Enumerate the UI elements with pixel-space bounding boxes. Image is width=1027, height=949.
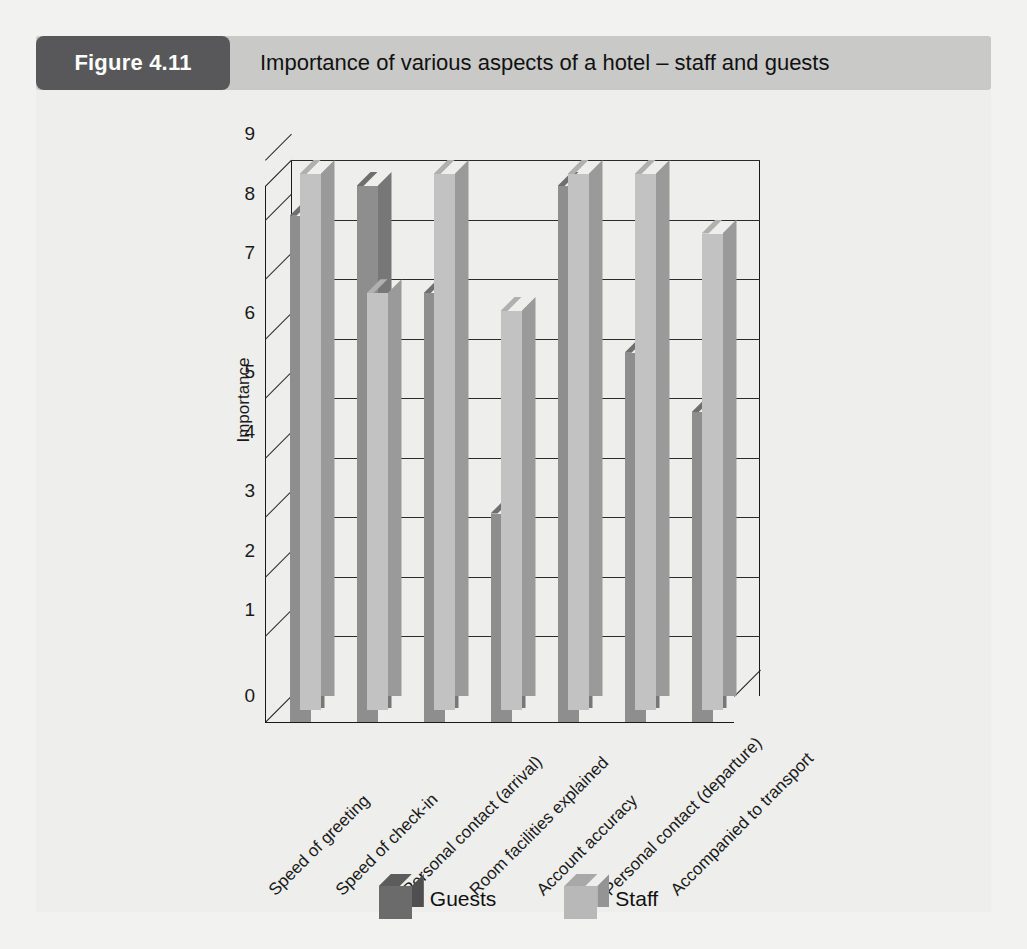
y-axis-title: Importance xyxy=(234,310,254,490)
y-tick-6 xyxy=(265,313,291,339)
plot-top-left-edge xyxy=(265,160,291,186)
x-axis-line xyxy=(265,722,734,723)
y-tick-1 xyxy=(265,610,291,636)
gridline-9 xyxy=(291,160,760,161)
bar-staff-0[interactable] xyxy=(300,174,321,710)
bar-staff-6[interactable] xyxy=(702,234,723,710)
y-tick-label-6: 6 xyxy=(221,302,265,324)
legend-item-staff[interactable]: Staff xyxy=(554,878,658,919)
bar-side-face xyxy=(656,160,670,696)
legend-swatch-guests-icon xyxy=(379,886,412,919)
bar-staff-4[interactable] xyxy=(568,174,589,710)
bar-side-face xyxy=(455,160,469,696)
legend-item-guests[interactable]: Guests xyxy=(369,878,497,919)
bar-front-face xyxy=(702,234,723,710)
bar-front-face xyxy=(434,174,455,710)
y-tick-label-1: 1 xyxy=(221,599,265,621)
y-tick-label-9: 9 xyxy=(221,123,265,145)
chart-legend: Guests Staff xyxy=(36,878,991,919)
bar-side-face xyxy=(522,297,536,696)
y-tick-label-7: 7 xyxy=(221,242,265,264)
legend-label-guests: Guests xyxy=(430,887,497,911)
bar-front-face xyxy=(300,174,321,710)
figure-number-badge: Figure 4.11 xyxy=(36,36,230,90)
figure-card: Figure 4.11 Importance of various aspect… xyxy=(36,36,991,912)
chart-region: Importance 0123456789 Speed of greetingS… xyxy=(36,90,991,912)
y-tick-label-2: 2 xyxy=(221,540,265,562)
plot-floor-right-edge xyxy=(734,696,760,722)
bar-side-face xyxy=(589,160,603,696)
bar-staff-5[interactable] xyxy=(635,174,656,710)
bar-side-face xyxy=(388,279,402,696)
y-tick-7 xyxy=(265,253,291,279)
bar-staff-2[interactable] xyxy=(434,174,455,710)
plot-floor-left-edge xyxy=(265,696,291,722)
bar-front-face xyxy=(367,293,388,710)
bar-front-face xyxy=(568,174,589,710)
y-tick-2 xyxy=(265,551,291,577)
y-tick-5 xyxy=(265,372,291,398)
legend-label-staff: Staff xyxy=(615,887,658,911)
bar-front-face xyxy=(635,174,656,710)
bar-staff-1[interactable] xyxy=(367,293,388,710)
y-tick-label-3: 3 xyxy=(221,480,265,502)
y-tick-label-4: 4 xyxy=(221,421,265,443)
plot-area: 0123456789 xyxy=(265,160,760,722)
bar-staff-3[interactable] xyxy=(501,311,522,710)
bar-side-face xyxy=(723,220,737,696)
y-tick-4 xyxy=(265,432,291,458)
figure-title: Importance of various aspects of a hotel… xyxy=(260,50,830,76)
y-tick-3 xyxy=(265,491,291,517)
figure-header: Figure 4.11 Importance of various aspect… xyxy=(36,36,991,90)
y-tick-label-0: 0 xyxy=(221,685,265,707)
y-tick-label-5: 5 xyxy=(221,361,265,383)
bar-front-face xyxy=(501,311,522,710)
legend-swatch-staff-icon xyxy=(564,886,597,919)
y-tick-9 xyxy=(265,134,291,160)
bar-side-face xyxy=(321,160,335,696)
y-tick-label-8: 8 xyxy=(221,183,265,205)
y-tick-8 xyxy=(265,194,291,220)
